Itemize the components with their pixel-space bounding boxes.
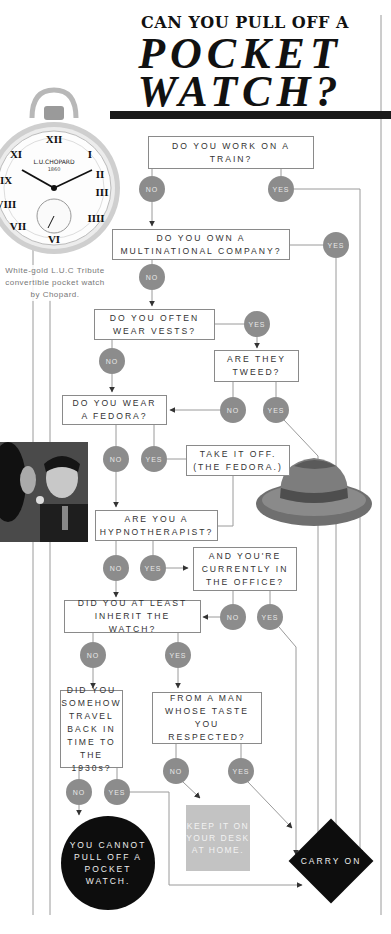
- question-man-whose-taste: FROM A MAN WHOSE TASTE YOU RESPECTED?: [152, 692, 262, 744]
- svg-text:IIII: IIII: [87, 212, 104, 224]
- watch-brand-text: L.U.CHOPARD: [33, 158, 74, 165]
- question-time-travel-1930s: DID YOU SOMEHOW TRAVEL BACK IN TIME TO T…: [60, 690, 123, 768]
- answer-yes-q8: YES: [257, 604, 283, 630]
- answer-yes-q1: YES: [268, 176, 294, 202]
- svg-text:VI: VI: [48, 233, 60, 245]
- outcome-keep-on-desk: KEEP IT ON YOUR DESK AT HOME.: [186, 805, 250, 871]
- answer-no-q4: NO: [220, 397, 246, 423]
- answer-yes-q4: YES: [263, 397, 289, 423]
- carry-on-label: CARRY ON: [287, 817, 375, 905]
- svg-text:I: I: [88, 148, 92, 160]
- question-work-on-train: DO YOU WORK ON A TRAIN?: [148, 136, 314, 169]
- answer-no-q7: NO: [103, 555, 129, 581]
- answer-yes-q7: YES: [140, 555, 166, 581]
- answer-yes-q10: YES: [104, 779, 130, 805]
- answer-yes-q2: YES: [323, 232, 349, 258]
- title-line-3: WATCH?: [110, 71, 370, 113]
- answer-no-q10: NO: [66, 779, 92, 805]
- answer-no-q2: NO: [139, 264, 165, 290]
- answer-no-q1: NO: [139, 176, 165, 202]
- title-divider-bar: [110, 111, 391, 119]
- answer-no-q11: NO: [163, 758, 189, 784]
- question-are-they-tweed: ARE THEY TWEED?: [214, 350, 299, 382]
- instruction-take-fedora-off: TAKE IT OFF. (THE FEDORA.): [186, 445, 290, 476]
- svg-text:II: II: [96, 168, 105, 180]
- watch-year-text: 1860: [48, 166, 61, 172]
- svg-text:III: III: [96, 186, 109, 198]
- question-inherit-watch: DID YOU AT LEAST INHERIT THE WATCH?: [64, 600, 201, 633]
- svg-text:XII: XII: [46, 133, 63, 145]
- svg-text:VIII: VIII: [0, 198, 16, 210]
- question-currently-in-office: AND YOU'RE CURRENTLY IN THE OFFICE?: [193, 547, 297, 591]
- svg-text:VII: VII: [10, 220, 27, 232]
- svg-text:IX: IX: [0, 174, 12, 186]
- answer-yes-q9: YES: [165, 642, 191, 668]
- answer-no-q8: NO: [220, 604, 246, 630]
- svg-text:XI: XI: [10, 148, 22, 160]
- answer-no-q5: NO: [103, 446, 129, 472]
- question-wear-fedora: DO YOU WEAR A FEDORA?: [62, 395, 167, 425]
- answer-no-q3: NO: [99, 348, 125, 374]
- watch-caption: White-gold L.U.C Tribute convertible poc…: [0, 265, 110, 301]
- outcome-cannot-pull-off: YOU CANNOT PULL OFF A POCKET WATCH.: [61, 816, 155, 910]
- hypnotist-photo: [0, 442, 88, 542]
- question-wear-vests: DO YOU OFTEN WEAR VESTS?: [94, 309, 215, 340]
- answer-yes-q3: YES: [244, 311, 270, 337]
- answer-yes-q5: YES: [141, 446, 167, 472]
- pocket-watch-image: XII I II III IIII VI VII VIII IX XI L.U.…: [0, 78, 122, 258]
- answer-no-q9: NO: [80, 642, 106, 668]
- question-hypnotherapist: ARE YOU A HYPNOTHERAPIST?: [95, 510, 218, 541]
- outcome-carry-on: CARRY ON: [287, 817, 375, 905]
- question-own-multinational: DO YOU OWN A MULTINATIONAL COMPANY?: [112, 229, 290, 260]
- answer-yes-q11: YES: [228, 758, 254, 784]
